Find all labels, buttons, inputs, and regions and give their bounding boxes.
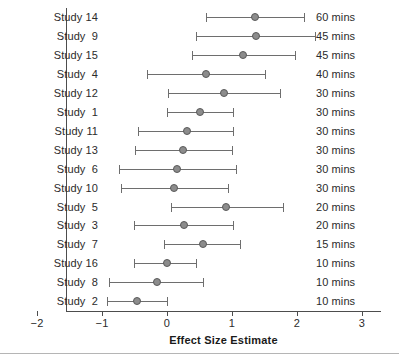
study-label: Study 7 [12,238,98,250]
study-label: Study 1 [12,106,98,118]
study-label: Study 2 [12,295,98,307]
study-row: Study 1330 mins [0,141,399,160]
ci-lower-cap [119,165,120,174]
ci-upper-cap [232,146,233,155]
ci-upper-cap [240,240,241,249]
study-row: Study 810 mins [0,273,399,292]
effect-size-point-marker [133,297,141,305]
effect-size-point-marker [196,108,204,116]
duration-label: 15 mins [316,238,386,250]
ci-upper-cap [233,108,234,117]
ci-lower-cap [164,240,165,249]
ci-lower-cap [138,127,139,136]
ci-lower-cap [167,108,168,117]
x-axis-tick-label: −1 [87,317,117,329]
effect-size-point-marker [252,32,260,40]
x-axis-tick-label: 3 [347,317,377,329]
study-row: Study 320 mins [0,216,399,235]
study-row: Study 1030 mins [0,179,399,198]
ci-upper-cap [280,89,281,98]
ci-lower-cap [168,89,169,98]
duration-label: 30 mins [316,144,386,156]
ci-upper-cap [283,203,284,212]
ci-upper-cap [304,13,305,22]
duration-label: 20 mins [316,219,386,231]
ci-upper-cap [203,278,204,287]
study-label: Study 13 [12,144,98,156]
ci-lower-cap [107,297,108,306]
x-axis-tick [102,311,103,316]
study-label: Study 11 [12,125,98,137]
effect-size-point-marker [202,70,210,78]
study-row: Study 130 mins [0,103,399,122]
x-axis-tick [167,311,168,316]
study-row: Study 715 mins [0,235,399,254]
x-axis-tick [362,311,363,316]
study-label: Study 6 [12,163,98,175]
study-label: Study 8 [12,276,98,288]
ci-lower-cap [206,13,207,22]
effect-size-point-marker [180,221,188,229]
ci-upper-cap [295,51,296,60]
duration-label: 30 mins [316,182,386,194]
effect-size-point-marker [163,259,171,267]
duration-label: 10 mins [316,276,386,288]
x-axis-tick-label: 0 [152,317,182,329]
duration-label: 45 mins [316,30,386,42]
forest-plot-figure: Study 1460 minsStudy 945 minsStudy 1545 … [0,0,399,357]
effect-size-point-marker [199,240,207,248]
study-row: Study 630 mins [0,160,399,179]
ci-upper-cap [167,297,168,306]
study-row: Study 1460 mins [0,8,399,27]
x-axis-tick [232,311,233,316]
study-row: Study 520 mins [0,198,399,217]
study-row: Study 210 mins [0,292,399,311]
study-label: Study 3 [12,219,98,231]
study-label: Study 5 [12,201,98,213]
study-row: Study 1610 mins [0,254,399,273]
study-row: Study 440 mins [0,65,399,84]
effect-size-point-marker [222,203,230,211]
duration-label: 60 mins [316,11,386,23]
study-row: Study 1130 mins [0,122,399,141]
duration-label: 30 mins [316,106,386,118]
study-label: Study 4 [12,68,98,80]
x-axis-tick-label: −2 [22,317,52,329]
x-axis-tick [297,311,298,316]
effect-size-point-marker [173,165,181,173]
study-label: Study 15 [12,49,98,61]
ci-upper-cap [196,259,197,268]
effect-size-point-marker [183,127,191,135]
study-row: Study 945 mins [0,27,399,46]
study-label: Study 16 [12,257,98,269]
effect-size-point-marker [179,146,187,154]
x-axis-tick-label: 2 [282,317,312,329]
ci-lower-cap [171,203,172,212]
effect-size-point-marker [153,278,161,286]
duration-label: 30 mins [316,125,386,137]
ci-lower-cap [147,70,148,79]
duration-label: 20 mins [316,201,386,213]
x-axis-line [66,311,381,312]
study-row: Study 1230 mins [0,84,399,103]
effect-size-point-marker [251,13,259,21]
x-axis-tick-label: 1 [217,317,247,329]
effect-size-point-marker [239,51,247,59]
ci-lower-cap [192,51,193,60]
duration-label: 10 mins [316,257,386,269]
study-label: Study 10 [12,182,98,194]
study-label: Study 14 [12,11,98,23]
duration-label: 45 mins [316,49,386,61]
duration-label: 30 mins [316,87,386,99]
ci-lower-cap [109,278,110,287]
duration-label: 10 mins [316,295,386,307]
ci-lower-cap [135,146,136,155]
duration-label: 40 mins [316,68,386,80]
ci-upper-cap [233,127,234,136]
study-label: Study 9 [12,30,98,42]
ci-upper-cap [233,221,234,230]
plot-area: Study 1460 minsStudy 945 minsStudy 1545 … [0,0,399,357]
study-row: Study 1545 mins [0,46,399,65]
ci-lower-cap [196,32,197,41]
effect-size-point-marker [170,184,178,192]
